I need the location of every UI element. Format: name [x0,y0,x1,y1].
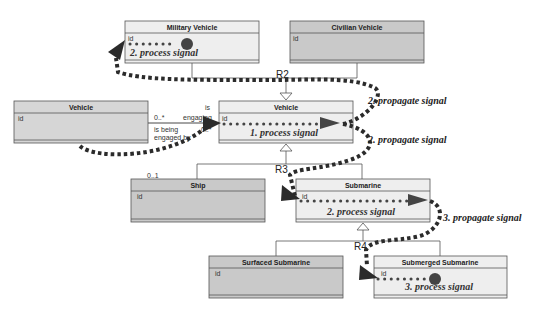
class-name: Submarine [345,182,381,189]
propagation-paths [80,58,440,266]
class-name: Submerged Submarine [402,259,479,267]
generalization-triangle-r2 [280,93,292,100]
class-ship[interactable]: Ship id [131,179,265,222]
mult-left: 0..* [154,114,165,121]
class-vehicle-left[interactable]: Vehicle id [14,101,148,143]
role-is-being: is being [154,126,178,134]
label-r3: R3 [275,164,288,175]
class-name: Vehicle [274,104,298,111]
class-name: Military Vehicle [167,24,218,32]
signal-label: 1. process signal [250,127,318,138]
attr-id: id [302,193,308,200]
attr-id: id [381,270,387,277]
ship-multiplicity: 0..1 [147,172,159,179]
attr-id: id [18,115,24,122]
arrowhead-military [108,40,125,60]
class-name: Ship [190,182,205,190]
attr-id: id [215,270,221,277]
role-is: is [205,104,211,111]
signal-sink-submerged [429,273,441,285]
signal-sink-military [181,38,193,50]
class-name: Surfaced Submarine [242,259,310,266]
role-engaged-by: engaged by [154,134,191,142]
class-name: Civilian Vehicle [332,24,383,31]
attr-id: id [293,35,299,42]
class-civilian-vehicle[interactable]: Civilian Vehicle id [290,21,424,63]
propagate-label-1: 2. propagate signal [367,95,447,106]
attr-id: id [222,115,228,122]
arrowhead-vehicle [203,116,221,132]
signal-label: 2. process signal [326,206,395,217]
class-name: Vehicle [69,104,93,111]
class-diagram: R2 R3 R4 0..* is engaging is being engag… [0,0,542,309]
attr-id: id [137,193,143,200]
propagate-label-3: 3. propagate signal [442,212,522,223]
attr-id: id [128,35,134,42]
propagate-label-2: 2. propagate signal [367,134,447,145]
class-surfaced-submarine[interactable]: Surfaced Submarine id [209,256,343,298]
